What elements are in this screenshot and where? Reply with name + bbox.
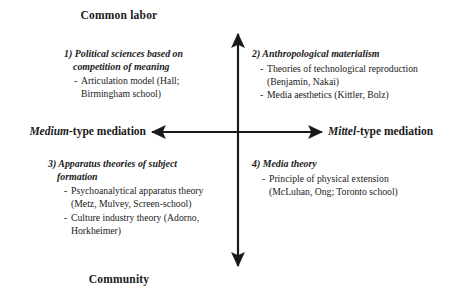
axis-label-right-rest: -type mediation — [356, 125, 433, 137]
quadrant-title: 1) Political sciences based on competiti… — [62, 48, 212, 73]
list-item: -Principle of physical extension (McLuha… — [262, 172, 422, 198]
list-item-text: Theories of technological reproduction (… — [267, 63, 418, 87]
dash-bullet-icon: - — [262, 172, 265, 185]
quadrant-top-right: 2) Anthropological materialism -Theories… — [252, 48, 432, 101]
quadrant-bottom-left: 3) Apparatus theories of subject formati… — [48, 158, 216, 237]
axis-label-right-emphasis: Mittel — [328, 125, 356, 137]
dash-bullet-icon: - — [64, 184, 67, 197]
list-item: -Media aesthetics (Kittler, Bolz) — [260, 88, 432, 101]
axes-group — [0, 0, 468, 296]
list-item-text: Psychoanalytical apparatus theory (Metz,… — [71, 185, 203, 209]
quadrant-diagram: Common labor Community Medium-type media… — [0, 0, 468, 296]
list-item: -Psychoanalytical apparatus theory (Metz… — [64, 184, 216, 210]
dash-bullet-icon: - — [260, 62, 263, 75]
quadrant-title-line1: 2) Anthropological materialism — [252, 48, 379, 59]
quadrant-top-left: 1) Political sciences based on competiti… — [62, 48, 212, 101]
dash-bullet-icon: - — [64, 211, 67, 224]
quadrant-title-line2: competition of meaning — [64, 61, 212, 74]
quadrant-title-line1: 4) Media theory — [252, 158, 317, 169]
axis-label-left: Medium-type mediation — [29, 125, 146, 137]
axis-label-left-emphasis: Medium — [29, 125, 69, 137]
list-item-text: Culture industry theory (Adorno, Horkhei… — [71, 212, 199, 236]
quadrant-title: 4) Media theory — [252, 158, 422, 171]
list-item: -Culture industry theory (Adorno, Horkhe… — [64, 211, 216, 237]
quadrant-title: 2) Anthropological materialism — [252, 48, 432, 61]
pole-label-top: Common labor — [0, 9, 468, 21]
quadrant-item-list: -Psychoanalytical apparatus theory (Metz… — [48, 184, 216, 237]
list-item-text: Principle of physical extension (McLuhan… — [269, 173, 398, 197]
quadrant-title-line1: 1) Political sciences based on — [64, 48, 183, 59]
axis-label-left-rest: -type mediation — [69, 125, 146, 137]
axis-label-right: Mittel-type mediation — [328, 125, 433, 137]
list-item: -Articulation model (Hall; Birmingham sc… — [74, 74, 212, 100]
dash-bullet-icon: - — [260, 88, 263, 101]
quadrant-item-list: -Articulation model (Hall; Birmingham sc… — [62, 74, 212, 100]
quadrant-title-line1: 3) Apparatus theories of subject — [48, 158, 177, 169]
list-item-text: Media aesthetics (Kittler, Bolz) — [267, 89, 389, 100]
list-item: -Theories of technological reproduction … — [260, 62, 432, 88]
pole-label-bottom: Community — [0, 273, 468, 285]
dash-bullet-icon: - — [74, 74, 77, 87]
quadrant-bottom-right: 4) Media theory -Principle of physical e… — [252, 158, 422, 198]
quadrant-title: 3) Apparatus theories of subject formati… — [48, 158, 216, 183]
quadrant-item-list: -Theories of technological reproduction … — [252, 62, 432, 102]
quadrant-item-list: -Principle of physical extension (McLuha… — [252, 172, 422, 198]
list-item-text: Articulation model (Hall; Birmingham sch… — [81, 75, 179, 99]
quadrant-title-line2: formation — [48, 171, 216, 184]
